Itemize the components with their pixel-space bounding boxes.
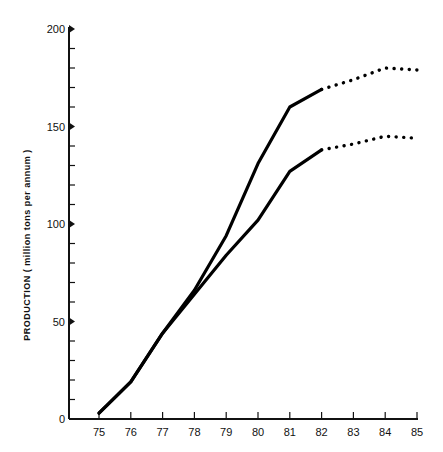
production-line-chart: 050100150200 7576777879808182838485 PROD… [0,0,443,452]
x-tick-label: 76 [125,426,137,438]
x-tick-label: 81 [284,426,296,438]
series-line [99,89,322,413]
y-tick-label: 50 [53,316,65,328]
x-tick-label: 75 [93,426,105,438]
x-tick-label: 79 [220,426,232,438]
x-tick-label: 82 [315,426,327,438]
x-tick-label: 83 [347,426,359,438]
major-tick-marker [69,25,75,33]
x-tick-label: 77 [156,426,168,438]
major-tick-marker [69,123,75,131]
y-tick-label: 200 [47,23,65,35]
x-tick-label: 78 [188,426,200,438]
major-tick-marker [69,220,75,228]
x-tick-label: 80 [252,426,264,438]
y-tick-label: 100 [47,218,65,230]
y-axis: 050100150200 [47,23,75,425]
data-series [99,68,417,413]
x-axis: 7576777879808182838485 [69,412,423,438]
y-tick-label: 0 [59,413,65,425]
y-axis-label: PRODUCTION ( million tons per annum ) [22,149,32,341]
series-projection-dotted [322,68,417,89]
x-tick-label: 84 [379,426,391,438]
major-tick-marker [69,318,75,326]
series-line [99,150,322,413]
x-tick-label: 85 [411,426,423,438]
series-projection-dotted [322,136,417,150]
y-tick-label: 150 [47,121,65,133]
